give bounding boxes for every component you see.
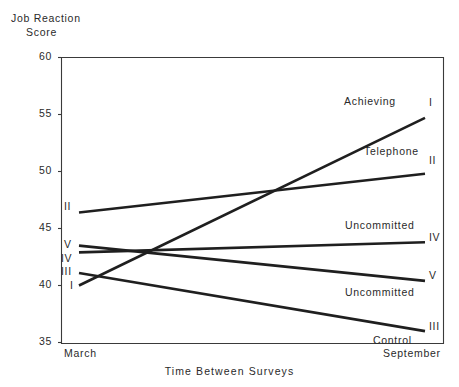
right-roman-label-iv: IV xyxy=(429,231,440,243)
right-roman-label-i: I xyxy=(429,96,433,108)
series-annotation-achieving: Achieving xyxy=(344,95,396,107)
series-annotation-telephone: Telephone xyxy=(364,145,419,157)
series-annotation-uncommitted-v: Uncommitted xyxy=(345,286,415,298)
job-reaction-score-line-chart: Job Reaction Score 60 55 50 45 40 35 xyxy=(0,0,459,387)
series-line-uncommitted-v xyxy=(79,246,425,281)
series-annotation-uncommitted-iv: Uncommitted xyxy=(345,219,415,231)
series-annotation-control: Control xyxy=(373,334,412,346)
left-roman-label-iv: IV xyxy=(61,252,72,264)
x-axis-title: Time Between Surveys xyxy=(0,365,459,377)
plot-area xyxy=(0,0,459,387)
left-roman-label-i: I xyxy=(70,279,74,291)
right-roman-label-iii: III xyxy=(429,320,440,332)
series-line-control xyxy=(79,273,425,331)
right-roman-label-ii: II xyxy=(429,154,436,166)
x-tick-label-march: March xyxy=(64,347,97,359)
x-tick-label-september: September xyxy=(383,347,441,359)
series-line-achieving xyxy=(79,118,425,286)
left-roman-label-ii: II xyxy=(64,200,71,212)
left-roman-label-iii: III xyxy=(61,265,72,277)
series-line-telephone xyxy=(79,174,425,213)
right-roman-label-v: V xyxy=(429,269,437,281)
left-roman-label-v: V xyxy=(64,238,72,250)
